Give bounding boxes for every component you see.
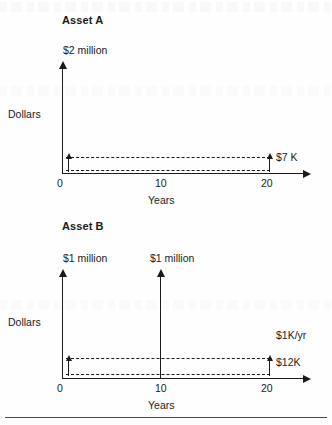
rate-label-b: $1K/yr <box>276 329 306 341</box>
x-axis-title-b: Years <box>148 399 174 411</box>
cashflow-arrow-start-icon-b <box>66 355 72 361</box>
cashflow-dashed-bottom-a <box>66 170 270 171</box>
x-axis-b <box>62 378 305 379</box>
lumpsum-label-b: $1 million <box>150 252 194 264</box>
lumpsum-arrowhead-icon-b <box>157 269 165 277</box>
x-axis-arrowhead-icon-b <box>303 375 311 383</box>
x-tick-10-b: 10 <box>155 382 167 394</box>
x-tick-0-a: 0 <box>57 177 63 189</box>
y-axis-max-label-a: $2 million <box>63 44 107 56</box>
y-axis-arrowhead-icon-b <box>59 269 67 277</box>
x-axis-title-a: Years <box>148 194 174 206</box>
x-axis-arrowhead-icon-a <box>303 170 311 178</box>
cashflow-arrow-end-icon-b <box>267 355 273 361</box>
cashflow-stem-end-a <box>269 157 270 172</box>
figure-asset-a: Asset A $2 million Dollars $7 K 0 10 20 … <box>0 0 332 212</box>
y-axis-arrowhead-icon-a <box>59 61 67 69</box>
y-axis-a <box>62 68 63 174</box>
cashflow-arrow-end-icon-a <box>267 153 273 159</box>
y-axis-title-b: Dollars <box>8 316 41 328</box>
cashflow-stem-end-b <box>269 359 270 376</box>
x-axis-a <box>62 173 305 174</box>
x-tick-20-b: 20 <box>261 382 273 394</box>
chart-title-asset-b: Asset B <box>62 220 104 232</box>
page-divider-rule <box>5 417 327 418</box>
cashflow-arrow-start-icon-a <box>66 153 72 159</box>
lumpsum-stem-b <box>160 276 161 378</box>
cashflow-dashed-top-a <box>66 157 270 158</box>
cashflow-dashed-bottom-b <box>66 374 270 375</box>
y-axis-max-label-b: $1 million <box>63 252 107 264</box>
x-tick-20-a: 20 <box>261 177 273 189</box>
cashflow-dashed-top-b <box>66 358 270 359</box>
y-axis-b <box>62 276 63 378</box>
page-canvas: Asset A $2 million Dollars $7 K 0 10 20 … <box>0 0 332 425</box>
y-axis-title-a: Dollars <box>8 108 41 120</box>
cashflow-stem-start-a <box>68 157 69 172</box>
x-tick-0-b: 0 <box>57 382 63 394</box>
value-label-b: $12K <box>276 356 301 368</box>
cashflow-stem-start-b <box>68 359 69 376</box>
figure-asset-b: Asset B $1 million Dollars $1 million $1… <box>0 212 332 417</box>
value-label-a: $7 K <box>276 151 298 163</box>
x-tick-10-a: 10 <box>155 177 167 189</box>
chart-title-asset-a: Asset A <box>62 14 103 26</box>
